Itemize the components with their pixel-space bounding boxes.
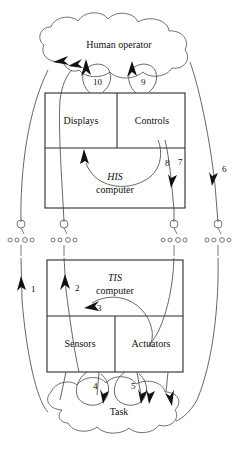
edge-7-lower-path [147,258,174,347]
his-computer-box: Displays Controls HIS computer [45,93,185,208]
edge-7-arrowhead [168,174,177,188]
edge-2-lower-path [64,258,79,372]
controls-label: Controls [135,115,170,126]
tis-computer-label-word: computer [96,285,134,296]
control-loop-diagram: Human operator Displays Controls HIS com… [0,0,238,458]
human-operator-node: Human operator [40,13,188,78]
edge-3-label: 3 [97,303,102,313]
connector-left-inner [51,220,77,256]
task-feed-line-4 [166,372,168,392]
edge-10-label: 10 [93,77,103,87]
his-computer-label-italic: HIS [106,171,123,182]
edge-7-label: 7 [178,157,183,167]
connector-right-outer [205,220,231,256]
displays-label: Displays [64,115,99,126]
diagram-canvas: Human operator Displays Controls HIS com… [0,0,238,458]
human-operator-label: Human operator [86,39,152,50]
connector-right-inner [161,220,187,256]
tis-computer-box: TIS computer Sensors Actuators [47,260,183,372]
connector-left-outer [8,220,34,256]
tis-computer-label-italic: TIS [108,272,122,283]
edge-2-label: 2 [75,283,80,293]
edge-9-label: 9 [141,77,146,87]
edge-1: 1 [17,70,48,412]
edge-6-upper-path [190,62,218,222]
sensors-label: Sensors [64,338,95,349]
edge-2-arrowhead [60,274,70,290]
edge-1-lower-path [21,258,48,412]
edge-8-arrowhead [80,149,89,164]
edge-8-path [86,140,161,186]
task-node: Task [48,377,179,433]
edge-6-label: 6 [222,164,227,174]
edge-1-label: 1 [31,284,36,294]
connector-symbols-group [8,220,231,256]
edge-6-lower-path [176,258,218,421]
edge-8: 8 [80,140,170,186]
task-cloud-shape [48,377,179,433]
task-label: Task [110,406,129,417]
edge-5-label: 5 [131,381,136,391]
edge-1-upper-path [21,70,48,222]
edge-8-label: 8 [165,158,170,168]
